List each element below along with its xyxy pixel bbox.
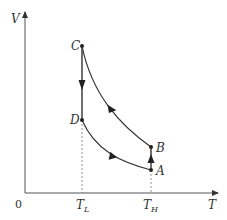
y-axis-label: V: [11, 12, 21, 26]
vt-diagram: C D B A V T 0 TL TH: [0, 0, 227, 220]
label-c: C: [71, 39, 80, 53]
tick-th: TH: [143, 198, 159, 214]
arrow-c-d-icon: [79, 80, 86, 90]
label-b: B: [155, 141, 165, 155]
tick-tl: TL: [76, 198, 89, 214]
point-a: [149, 168, 153, 172]
arrow-a-b-icon: [148, 154, 155, 163]
x-axis-label: T: [208, 198, 217, 212]
point-c: [80, 44, 84, 48]
point-b: [149, 145, 153, 149]
label-a: A: [155, 164, 165, 178]
arrow-b-c-icon: [106, 103, 116, 113]
point-d: [80, 118, 84, 122]
diagram-svg: C D B A V T 0 TL TH: [0, 0, 227, 220]
process-d-a: [82, 120, 151, 170]
origin-label: 0: [15, 198, 22, 211]
process-b-c: [82, 46, 151, 147]
label-d: D: [69, 113, 80, 127]
